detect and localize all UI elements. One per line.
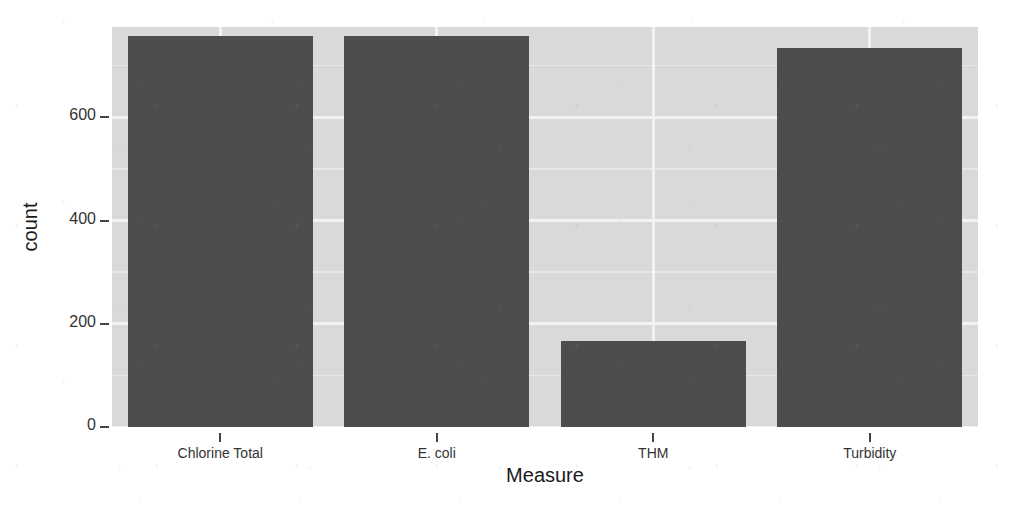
x-axis-tick-mark	[652, 433, 654, 442]
bar	[344, 36, 529, 427]
y-axis-tick-label: 200	[69, 313, 96, 331]
y-axis-tick-mark	[100, 220, 109, 222]
x-axis-tick-label: E. coli	[418, 445, 456, 461]
bar	[128, 36, 313, 427]
y-axis-title-label: count	[19, 203, 42, 252]
y-axis-tick-mark	[100, 426, 109, 428]
y-axis-tick-mark	[100, 323, 109, 325]
x-axis-tick-mark	[436, 433, 438, 442]
y-axis-tick-label: 400	[69, 210, 96, 228]
x-axis-tick-label: Turbidity	[843, 445, 896, 461]
x-axis-tick-mark	[869, 433, 871, 442]
x-axis-tick-label: THM	[638, 445, 668, 461]
x-axis-tick-label: Chlorine Total	[178, 445, 263, 461]
y-axis-tick-label: 600	[69, 106, 96, 124]
x-axis-title: Measure	[112, 464, 978, 487]
plot-panel	[112, 27, 978, 427]
y-axis-tick-label: 0	[87, 416, 96, 434]
bar-chart-figure: count 0200400600 Chlorine TotalE. coliTH…	[0, 0, 1016, 508]
y-axis-tick-mark	[100, 116, 109, 118]
bar	[777, 48, 962, 427]
x-axis-tick-mark	[219, 433, 221, 442]
bar	[561, 341, 746, 427]
